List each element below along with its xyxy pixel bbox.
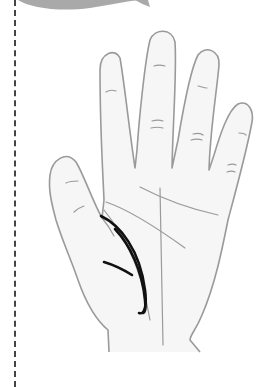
top-decorative-shape bbox=[18, 0, 145, 10]
hand-outline bbox=[49, 31, 252, 352]
palm-illustration bbox=[0, 0, 277, 387]
top-decorative-tail bbox=[135, 0, 150, 7]
